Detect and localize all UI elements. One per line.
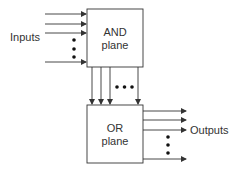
product-term-ellipsis-dots — [115, 85, 134, 89]
inputs-label: Inputs — [10, 31, 40, 43]
outputs-label: Outputs — [190, 124, 229, 136]
or-plane-box — [87, 105, 143, 163]
and-plane-label-line2: plane — [102, 39, 129, 51]
output-ellipsis-dots — [166, 135, 170, 155]
or-plane-label-line1: OR — [107, 122, 124, 134]
or-plane-label-line2: plane — [102, 135, 129, 147]
and-plane-box — [87, 9, 143, 67]
input-ellipsis-dots — [72, 38, 76, 59]
output-arrows — [143, 111, 186, 159]
pla-diagram: Inputs AND plane OR plane Outputs — [0, 0, 237, 171]
input-arrows — [45, 14, 86, 62]
and-plane-label-line1: AND — [103, 26, 126, 38]
